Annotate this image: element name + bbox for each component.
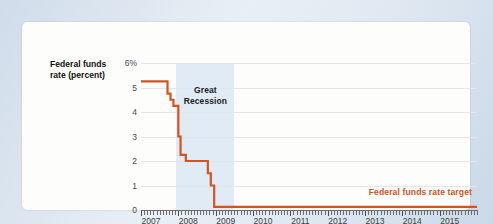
x-axis-minor-tick [247,211,248,215]
x-axis-minor-tick [222,211,223,215]
x-axis-tick-label: 2011 [291,216,309,224]
x-axis-minor-tick [331,211,332,215]
x-axis-minor-tick [259,211,260,215]
x-axis-minor-tick [427,211,428,215]
x-axis-minor-tick [368,211,369,215]
x-axis-minor-tick [225,211,226,215]
x-axis-minor-tick [374,211,375,215]
x-axis-minor-tick [284,211,285,215]
x-axis-minor-tick [185,211,186,215]
x-axis-minor-tick [356,211,357,215]
x-axis-minor-tick [293,211,294,215]
x-axis-minor-tick [241,211,242,215]
x-axis-tick-label: 2015 [440,216,459,224]
x-axis-minor-tick [421,211,422,215]
x-axis-minor-tick [461,211,462,215]
x-axis-minor-tick [150,211,151,215]
plot-area: Great Recession Federal funds rate targe… [141,63,477,210]
x-axis-minor-tick [306,211,307,215]
x-axis-minor-tick [409,211,410,215]
x-axis-minor-tick [452,211,453,215]
x-axis-minor-tick [359,211,360,215]
x-axis-minor-tick [197,211,198,215]
y-axis-tick-label: 0 [132,205,137,215]
x-axis-minor-tick [163,211,164,215]
x-axis-minor-tick [272,211,273,215]
y-axis-tick-label: 6% [125,58,137,68]
x-axis-minor-tick [309,211,310,215]
x-axis-minor-tick [477,211,478,215]
x-axis-minor-tick [228,211,229,215]
x-axis-minor-tick [318,211,319,215]
x-axis-minor-tick [393,211,394,215]
x-axis-minor-tick [415,211,416,215]
chart-figure: Federal funds rate (percent) 0123456% Gr… [0,0,493,224]
x-axis-minor-tick [237,211,238,215]
x-axis-minor-tick [172,211,173,215]
y-axis-title-line-2: rate (percent) [50,70,122,81]
x-axis-minor-tick [424,211,425,215]
x-axis-minor-tick [169,211,170,215]
y-axis-tick-label: 4 [132,107,137,117]
x-axis-minor-tick [437,211,438,215]
x-axis-minor-tick [181,211,182,215]
x-axis-minor-tick [153,211,154,215]
x-axis-minor-tick [250,211,251,215]
x-axis-minor-tick [443,211,444,215]
x-axis-minor-tick [465,211,466,215]
x-axis-minor-tick [160,211,161,215]
x-axis-minor-tick [387,211,388,215]
x-axis-tick-labels: 200720082009201020112012201320142015 [141,216,481,224]
x-axis-minor-tick [325,211,326,215]
x-axis-minor-tick [433,211,434,215]
x-axis-minor-tick [278,211,279,215]
y-axis-tick-label: 2 [132,156,137,166]
x-axis-minor-tick [300,211,301,215]
x-axis-tick-label: 2012 [328,216,347,224]
series-annotation-label: Federal funds rate target [369,187,472,197]
x-axis-minor-tick [362,211,363,215]
x-axis-minor-tick [455,211,456,215]
x-axis-minor-tick [412,211,413,215]
x-axis-minor-tick [262,211,263,215]
y-axis-tick-labels: 0123456% [117,63,137,210]
x-axis-minor-tick [219,211,220,215]
x-axis-tick-label: 2008 [179,216,198,224]
x-axis-minor-tick [399,211,400,215]
x-axis-minor-tick [468,211,469,215]
x-axis-minor-tick [418,211,419,215]
y-axis-tick-label: 5 [132,83,137,93]
x-axis-minor-tick [353,211,354,215]
x-axis-minor-tick [471,211,472,215]
x-axis-minor-tick [449,211,450,215]
x-axis-minor-tick [321,211,322,215]
x-axis-minor-tick [147,211,148,215]
x-axis-minor-tick [430,211,431,215]
x-axis-minor-tick [312,211,313,215]
x-axis-minor-tick [231,211,232,215]
x-axis-minor-tick [144,211,145,215]
x-axis-minor-tick [315,211,316,215]
x-axis-tick-label: 2010 [254,216,273,224]
x-axis-minor-tick [213,211,214,215]
x-axis-minor-tick [194,211,195,215]
y-axis-title-line-1: Federal funds [50,59,122,70]
x-axis-minor-tick [275,211,276,215]
x-axis-minor-tick [269,211,270,215]
x-axis-minor-tick [191,211,192,215]
y-axis-title: Federal funds rate (percent) [50,59,122,81]
x-axis-minor-tick [396,211,397,215]
x-axis-minor-tick [200,211,201,215]
y-axis-tick-label: 1 [132,181,137,191]
x-axis-minor-tick [334,211,335,215]
x-axis-tick-label: 2013 [366,216,385,224]
x-axis-minor-tick [446,211,447,215]
x-axis-minor-tick [405,211,406,215]
x-axis-tick-label: 2007 [142,216,161,224]
x-axis-tick-label: 2014 [403,216,422,224]
x-axis-minor-tick [157,211,158,215]
x-axis-minor-tick [234,211,235,215]
x-axis-minor-tick [390,211,391,215]
x-axis-minor-tick [206,211,207,215]
x-axis-minor-tick [209,211,210,215]
